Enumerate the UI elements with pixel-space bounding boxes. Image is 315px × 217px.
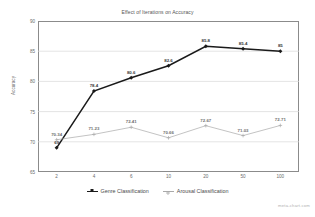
x-tick-label: 50 (241, 174, 246, 179)
plus-marker-icon (163, 188, 174, 194)
data-label: 72.67 (200, 118, 211, 123)
data-label: 70.34 (51, 132, 62, 137)
watermark-text: meta-chart.com (278, 203, 310, 208)
x-tick-label: 10 (166, 174, 171, 179)
legend-item[interactable]: Genre Classification (87, 188, 149, 194)
data-label: 80.6 (127, 70, 136, 75)
data-label: 78.4 (90, 83, 99, 88)
data-label: 82.6 (164, 58, 173, 63)
y-tick-label: 80 (30, 79, 35, 84)
data-label: 72.41 (126, 119, 137, 124)
chart-legend: Genre ClassificationArousal Classificati… (0, 188, 315, 194)
diamond-marker-icon (87, 188, 98, 194)
y-tick-label: 90 (30, 19, 35, 24)
data-point-marker (129, 125, 133, 129)
data-label: 71.23 (88, 126, 99, 131)
x-tick-label: 6 (130, 174, 133, 179)
data-point-marker (92, 133, 96, 137)
y-tick-label: 65 (30, 170, 35, 175)
data-point-marker (167, 136, 171, 140)
y-tick-label: 70 (30, 139, 35, 144)
data-point-marker (278, 49, 282, 53)
chart-container: Effect of Iterations on Accuracy Accurac… (0, 0, 315, 217)
y-tick-label: 85 (30, 49, 35, 54)
data-label: 70.66 (163, 130, 174, 135)
data-point-marker (241, 134, 245, 138)
data-point-marker (129, 76, 133, 80)
data-label: 85.8 (202, 38, 211, 43)
data-point-marker (279, 124, 283, 128)
data-label: 85 (278, 43, 283, 48)
y-axis-title: Accuracy (11, 66, 16, 106)
legend-item[interactable]: Arousal Classification (163, 188, 229, 194)
data-label: 85.4 (239, 41, 248, 46)
x-axis-tick-labels: 246102050100 (38, 174, 299, 184)
chart-title: Effect of Iterations on Accuracy (0, 9, 315, 15)
x-tick-label: 4 (93, 174, 96, 179)
x-tick-label: 20 (203, 174, 208, 179)
legend-label: Arousal Classification (177, 188, 229, 194)
data-point-marker (204, 124, 208, 128)
legend-label: Genre Classification (101, 188, 149, 194)
data-label: 72.71 (275, 117, 286, 122)
x-tick-label: 100 (277, 174, 285, 179)
data-point-marker (241, 47, 245, 51)
data-label: 71.03 (238, 128, 249, 133)
data-label: 69 (54, 140, 59, 145)
chart-svg-layer (38, 21, 299, 172)
y-tick-label: 75 (30, 109, 35, 114)
y-axis-tick-labels: 908580757065 (20, 21, 35, 172)
x-tick-label: 2 (55, 174, 58, 179)
plot-area-wrapper: 6978.480.682.685.885.48570.3471.2372.417… (38, 21, 299, 172)
